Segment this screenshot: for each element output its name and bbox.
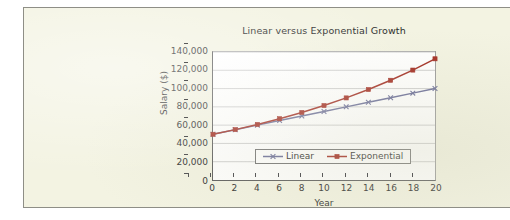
x-tick-label: 16 xyxy=(379,184,403,193)
y-tick-label: 40,000 xyxy=(152,139,208,148)
x-tick-label: 0 xyxy=(200,184,224,193)
x-tick-mark xyxy=(300,173,301,177)
y-tick-label: 140,000 xyxy=(152,47,208,56)
x-tick-mark xyxy=(345,173,346,177)
legend-entry-linear: Linear xyxy=(263,152,314,161)
x-tick-label: 6 xyxy=(267,184,291,193)
screenshot-root: Linear versus Exponential Growth Salary … xyxy=(0,0,510,220)
y-tick-mark xyxy=(184,154,188,155)
x-axis-tick-labels: 02468101214161820 xyxy=(212,184,436,198)
legend-label: Linear xyxy=(286,152,314,161)
x-tick-mark xyxy=(188,173,189,177)
x-tick-mark xyxy=(210,173,211,177)
y-tick-mark xyxy=(184,117,188,118)
x-tick-mark xyxy=(412,173,413,177)
x-tick-mark xyxy=(233,173,234,177)
x-tick-mark xyxy=(367,173,368,177)
x-tick-label: 2 xyxy=(222,184,246,193)
y-tick-mark xyxy=(184,173,188,174)
x-tick-mark xyxy=(255,173,256,177)
y-tick-label: 60,000 xyxy=(152,121,208,130)
y-tick-label: 80,000 xyxy=(152,102,208,111)
y-tick-mark xyxy=(184,136,188,137)
y-tick-label: 100,000 xyxy=(152,84,208,93)
y-tick-mark xyxy=(184,80,188,81)
y-tick-mark xyxy=(184,62,188,63)
x-tick-label: 14 xyxy=(357,184,381,193)
y-tick-label: 20,000 xyxy=(152,158,208,167)
x-tick-label: 20 xyxy=(424,184,448,193)
y-tick-mark xyxy=(184,43,188,44)
chart-title: Linear versus Exponential Growth xyxy=(212,25,436,36)
x-tick-mark xyxy=(322,173,323,177)
legend-label: Exponential xyxy=(350,152,403,161)
y-tick-label: 120,000 xyxy=(152,65,208,74)
x-axis-title: Year xyxy=(212,198,436,208)
x-tick-label: 8 xyxy=(290,184,314,193)
x-tick-mark xyxy=(278,173,279,177)
x-tick-mark xyxy=(390,173,391,177)
x-tick-label: 4 xyxy=(245,184,269,193)
x-tick-label: 18 xyxy=(402,184,426,193)
chart-legend: LinearExponential xyxy=(255,149,411,164)
x-tick-label: 10 xyxy=(312,184,336,193)
y-axis-tick-labels: 020,00040,00060,00080,000100,000120,0001… xyxy=(150,51,208,181)
legend-marker-x-icon xyxy=(263,152,283,161)
legend-marker-square-icon xyxy=(327,152,347,161)
textbook-page-panel: Linear versus Exponential Growth Salary … xyxy=(23,7,510,208)
y-tick-mark xyxy=(184,99,188,100)
x-tick-label: 12 xyxy=(334,184,358,193)
legend-entry-exponential: Exponential xyxy=(327,152,403,161)
